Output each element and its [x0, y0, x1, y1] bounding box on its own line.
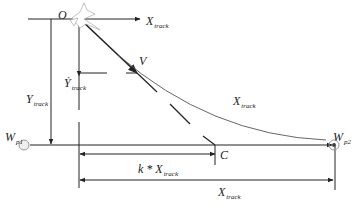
k-distance-label: k * Xtrack — [138, 160, 178, 178]
x-track-label: Xtrack — [146, 12, 169, 30]
velocity-vector — [80, 19, 215, 145]
wp2-label: Wp2 — [333, 128, 351, 146]
point-c-label: C — [220, 149, 228, 161]
y-track-label: Ytrack — [26, 90, 48, 108]
total-distance-label: Xtrack — [218, 183, 241, 201]
wp1-label: Wp1 — [5, 128, 23, 146]
y-dot-label: Ẏtrack — [64, 74, 86, 92]
tracking-diagram: O Xtrack Ytrack Ẏtrack V Xtrack Wp1 Wp2 … — [0, 0, 353, 207]
origin-label: O — [58, 9, 67, 21]
trajectory-curve — [118, 55, 326, 140]
aircraft-icon — [70, 3, 100, 30]
curve-label: Xtrack — [233, 92, 256, 110]
velocity-label: V — [139, 55, 146, 67]
